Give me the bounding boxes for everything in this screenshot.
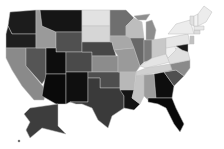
state-ut: Utah <box>46 48 66 74</box>
state-ct: Connecticut <box>194 30 200 34</box>
state-wy: Wyoming <box>56 32 82 52</box>
state-vt: Vermont <box>190 16 194 26</box>
state-ks: Kansas <box>92 56 118 72</box>
state-nm: New Mexico <box>66 72 88 104</box>
state-ar: Arkansas <box>120 72 136 90</box>
state-fl: Florida <box>148 98 184 132</box>
state-nd: North Dakota <box>82 10 110 26</box>
state-ak: Alaska <box>24 104 66 138</box>
state-nj: New Jersey <box>190 36 194 44</box>
state-me: Maine <box>198 6 212 26</box>
state-co: Colorado <box>66 52 92 72</box>
us-choropleth-map: WashingtonOregonCaliforniaNevadaIdahoMon… <box>0 0 224 149</box>
state-nh: New Hampshire <box>194 14 198 26</box>
state-ma: Massachusetts <box>194 26 204 30</box>
state-wa: Washington <box>8 10 36 34</box>
state-hi: Hawaii <box>18 140 20 142</box>
state-sd: South Dakota <box>82 26 110 42</box>
state-az: Arizona <box>42 74 66 104</box>
